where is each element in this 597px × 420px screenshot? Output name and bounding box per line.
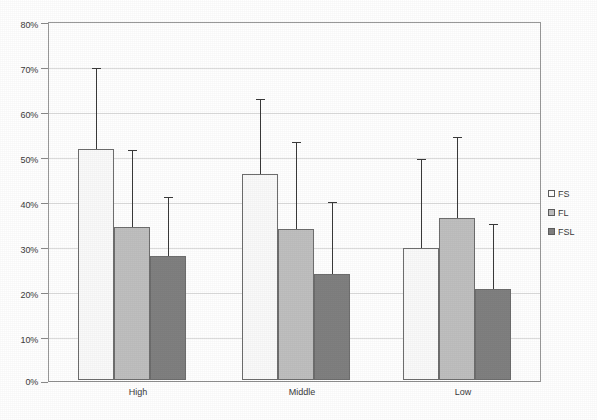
y-axis-tick-30 bbox=[41, 248, 48, 249]
bar-fs-high bbox=[78, 149, 114, 380]
legend-label-fl: FL bbox=[558, 208, 569, 218]
bar-fsl-low bbox=[475, 289, 511, 380]
y-axis-label-20: 20% bbox=[0, 290, 38, 300]
error-bar-fs-middle bbox=[260, 100, 261, 173]
chart-legend: FS FL FSL bbox=[548, 186, 594, 243]
bar-fl-high bbox=[114, 227, 150, 380]
error-bar-fl-high bbox=[132, 151, 133, 226]
y-axis-label-60: 60% bbox=[0, 110, 38, 120]
y-axis-tick-40 bbox=[41, 203, 48, 204]
y-axis-label-50: 50% bbox=[0, 155, 38, 165]
y-axis-label-10: 10% bbox=[0, 335, 38, 345]
bar-chart: 80% 70% 60% 50% 40% 30% 20% 10% 0% High … bbox=[0, 0, 597, 420]
y-axis-label-30: 30% bbox=[0, 245, 38, 255]
y-axis-tick-10 bbox=[41, 338, 48, 339]
x-axis-labels: High Middle Low bbox=[48, 386, 541, 410]
x-axis-label-high: High bbox=[78, 386, 198, 398]
error-bar-fs-high bbox=[96, 69, 97, 149]
error-bar-fl-middle bbox=[296, 143, 297, 230]
error-cap-fs-middle bbox=[256, 99, 265, 100]
y-axis-tick-20 bbox=[41, 293, 48, 294]
bar-group-middle bbox=[242, 22, 350, 382]
x-axis-label-low: Low bbox=[403, 386, 523, 398]
legend-item-fsl: FSL bbox=[548, 224, 594, 239]
y-axis-tick-80 bbox=[41, 23, 48, 24]
y-axis-label-70: 70% bbox=[0, 65, 38, 75]
y-axis-label-80: 80% bbox=[0, 20, 38, 30]
y-axis-tick-60 bbox=[41, 113, 48, 114]
error-bar-fsl-middle bbox=[332, 203, 333, 274]
y-axis-tick-50 bbox=[41, 158, 48, 159]
error-cap-fs-high bbox=[92, 68, 101, 69]
y-axis-labels: 80% 70% 60% 50% 40% 30% 20% 10% 0% bbox=[0, 0, 38, 420]
legend-label-fs: FS bbox=[558, 189, 570, 199]
error-bar-fsl-low bbox=[493, 225, 494, 289]
bar-group-low bbox=[403, 22, 511, 382]
y-axis-tick-70 bbox=[41, 68, 48, 69]
error-cap-fl-middle bbox=[292, 142, 301, 143]
legend-swatch-fsl-icon bbox=[548, 228, 555, 235]
y-axis-tick-0 bbox=[41, 382, 48, 383]
legend-item-fl: FL bbox=[548, 205, 594, 220]
error-cap-fsl-middle bbox=[328, 202, 337, 203]
bar-fsl-middle bbox=[314, 274, 350, 381]
bar-fs-middle bbox=[242, 174, 278, 380]
bar-fl-middle bbox=[278, 229, 314, 380]
error-bar-fsl-high bbox=[168, 198, 169, 256]
error-cap-fsl-low bbox=[489, 224, 498, 225]
legend-swatch-fs-icon bbox=[548, 190, 555, 197]
error-cap-fl-low bbox=[453, 137, 462, 138]
error-bar-fl-low bbox=[457, 138, 458, 218]
legend-item-fs: FS bbox=[548, 186, 594, 201]
y-axis-label-40: 40% bbox=[0, 200, 38, 210]
legend-swatch-fl-icon bbox=[548, 209, 555, 216]
bar-fs-low bbox=[403, 248, 439, 380]
x-axis-label-middle: Middle bbox=[242, 386, 362, 398]
bar-groups bbox=[48, 22, 541, 382]
error-bar-fs-low bbox=[421, 160, 422, 248]
bar-group-high bbox=[78, 22, 186, 382]
error-cap-fl-high bbox=[128, 150, 137, 151]
bar-fsl-high bbox=[150, 256, 186, 380]
legend-label-fsl: FSL bbox=[558, 227, 575, 237]
error-cap-fsl-high bbox=[164, 197, 173, 198]
bar-fl-low bbox=[439, 218, 475, 380]
error-cap-fs-low bbox=[417, 159, 426, 160]
y-axis-label-0: 0% bbox=[0, 377, 38, 387]
